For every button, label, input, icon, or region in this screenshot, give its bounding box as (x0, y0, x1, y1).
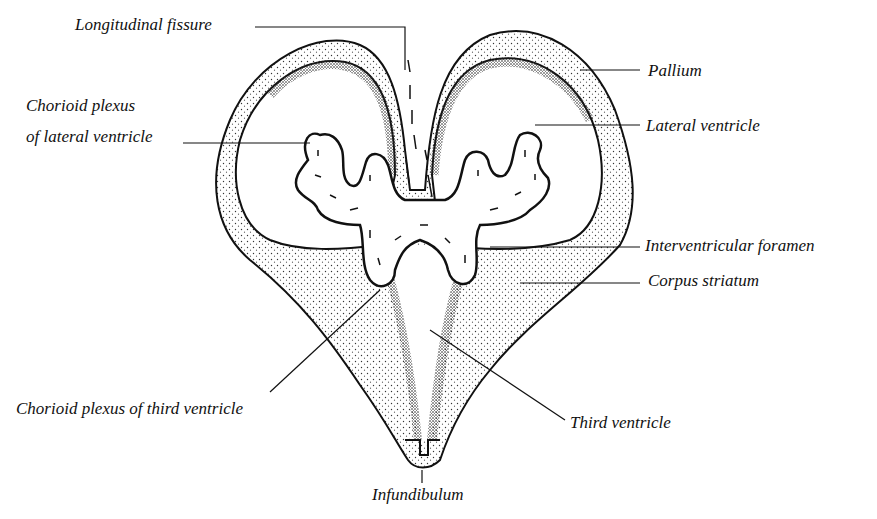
label-corpus-striatum: Corpus striatum (648, 271, 759, 291)
brain-section-diagram (0, 0, 877, 519)
label-chorioid-plexus-lateral-line2: of lateral ventricle (26, 127, 153, 147)
label-interventricular-foramen: Interventricular foramen (645, 236, 815, 256)
label-third-ventricle: Third ventricle (570, 413, 671, 433)
fissure-marks (406, 60, 432, 197)
label-lateral-ventricle: Lateral ventricle (646, 116, 760, 136)
label-chorioid-plexus-lateral-line1: Chorioid plexus (26, 96, 135, 116)
label-longitudinal-fissure: Longitudinal fissure (75, 15, 212, 35)
label-infundibulum: Infundibulum (372, 485, 464, 505)
label-pallium: Pallium (648, 61, 702, 81)
label-chorioid-plexus-third: Chorioid plexus of third ventricle (16, 399, 243, 419)
